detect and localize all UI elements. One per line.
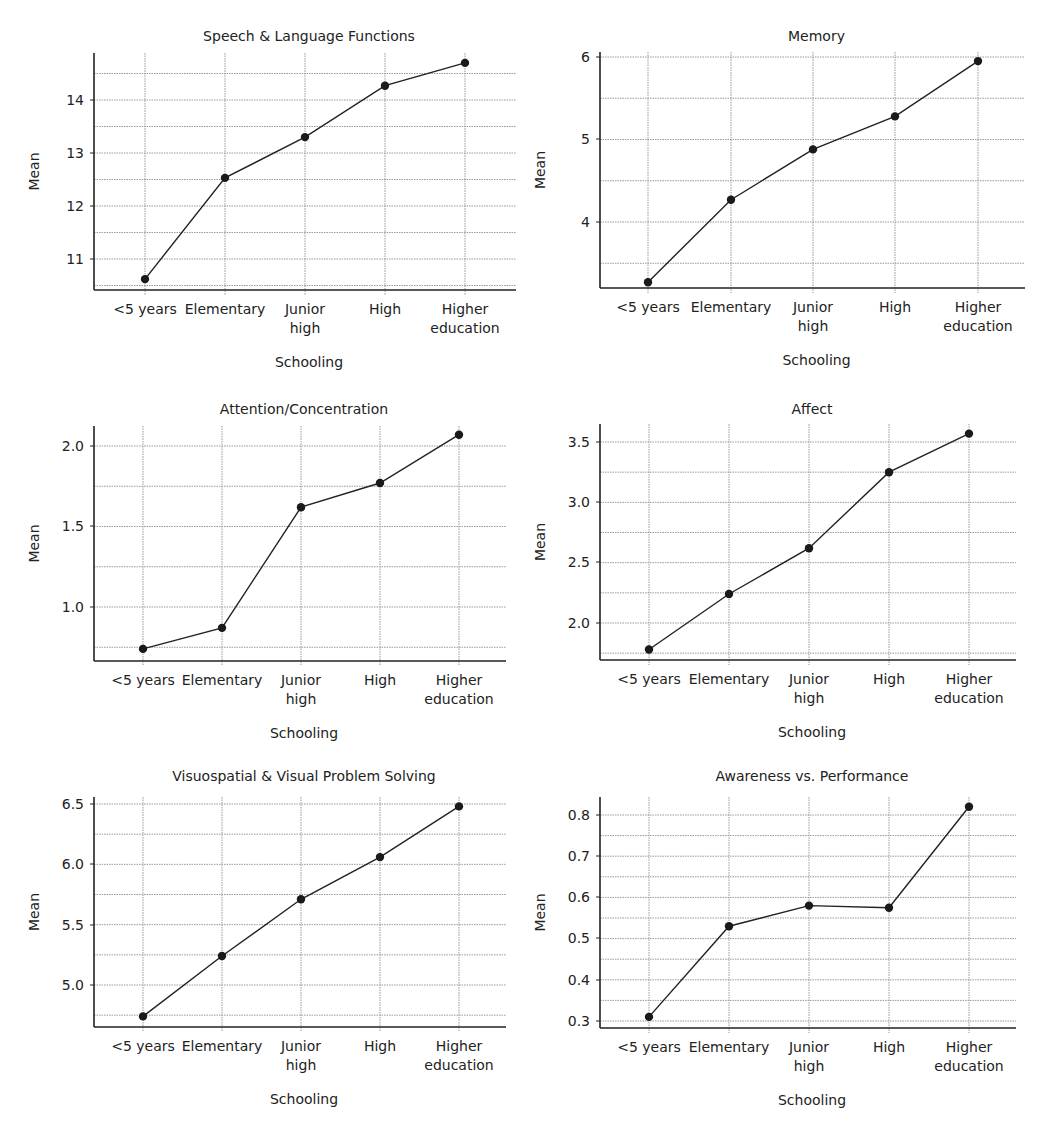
data-point: [885, 468, 893, 476]
chart-panel-1: 11121314Speech & Language Functions<5 ye…: [26, 28, 516, 370]
data-point: [455, 802, 463, 810]
chart-figure: 11121314Speech & Language Functions<5 ye…: [0, 0, 1046, 1139]
x-tick-label: Elementary: [691, 299, 772, 315]
y-axis-label: Mean: [26, 152, 42, 190]
data-point: [805, 901, 813, 909]
y-tick-label: 14: [66, 92, 84, 108]
y-tick-label: 2.0: [568, 615, 590, 631]
x-axis-label: Schooling: [778, 1092, 846, 1108]
x-tick-label: High: [879, 299, 911, 315]
data-point: [974, 57, 982, 65]
data-point: [725, 922, 733, 930]
y-axis-label: Mean: [26, 893, 42, 931]
x-tick-label: High: [873, 1039, 905, 1055]
data-point: [891, 112, 899, 120]
data-point: [644, 278, 652, 286]
y-axis-label: Mean: [532, 893, 548, 931]
chart-title: Speech & Language Functions: [203, 28, 415, 44]
y-tick-label: 5.5: [62, 917, 84, 933]
x-tick-label: Juniorhigh: [788, 671, 829, 706]
x-tick-label: Juniorhigh: [284, 301, 325, 336]
x-tick-label: Highereducation: [934, 1039, 1003, 1074]
chart-panel-4: 2.02.53.03.5Affect<5 yearsElementaryJuni…: [532, 401, 1016, 740]
y-tick-label: 2.5: [568, 554, 590, 570]
x-tick-label: Elementary: [689, 671, 770, 687]
data-point: [376, 853, 384, 861]
y-tick-label: 1.0: [62, 599, 84, 615]
data-point: [455, 431, 463, 439]
y-tick-label: 0.7: [568, 848, 590, 864]
chart-title: Affect: [791, 401, 833, 417]
data-point: [805, 544, 813, 552]
data-point: [885, 904, 893, 912]
data-line: [648, 61, 978, 282]
y-tick-label: 5: [581, 131, 590, 147]
x-axis-label: Schooling: [778, 724, 846, 740]
data-point: [297, 503, 305, 511]
x-tick-label: <5 years: [113, 301, 177, 317]
y-tick-label: 6: [581, 49, 590, 65]
y-tick-label: 11: [66, 251, 84, 267]
x-axis-label: Schooling: [270, 1091, 338, 1107]
data-point: [727, 196, 735, 204]
data-point: [725, 590, 733, 598]
x-tick-label: Juniorhigh: [792, 299, 833, 334]
chart-panel-2: 456Memory<5 yearsElementaryJuniorhighHig…: [532, 28, 1025, 368]
data-point: [139, 1012, 147, 1020]
chart-panel-5: 5.05.56.06.5Visuospatial & Visual Proble…: [26, 768, 506, 1107]
y-tick-label: 6.5: [62, 796, 84, 812]
chart-title: Memory: [788, 28, 845, 44]
data-point: [461, 59, 469, 67]
y-tick-label: 3.5: [568, 434, 590, 450]
chart-panel-3: 1.01.52.0Attention/Concentration<5 years…: [26, 401, 506, 741]
data-point: [301, 133, 309, 141]
y-axis-label: Mean: [532, 151, 548, 189]
data-point: [218, 624, 226, 632]
data-point: [297, 895, 305, 903]
x-tick-label: <5 years: [111, 1038, 175, 1054]
data-point: [965, 429, 973, 437]
chart-title: Attention/Concentration: [220, 401, 388, 417]
y-tick-label: 5.0: [62, 977, 84, 993]
x-tick-label: <5 years: [617, 671, 681, 687]
x-tick-label: Juniorhigh: [280, 672, 321, 707]
data-point: [376, 479, 384, 487]
y-axis-label: Mean: [532, 523, 548, 561]
y-tick-label: 0.8: [568, 807, 590, 823]
x-tick-label: Highereducation: [424, 672, 493, 707]
data-point: [809, 145, 817, 153]
data-point: [139, 645, 147, 653]
data-point: [141, 275, 149, 283]
x-tick-label: Elementary: [185, 301, 266, 317]
x-tick-label: Elementary: [182, 672, 263, 688]
x-tick-label: High: [873, 671, 905, 687]
x-tick-label: <5 years: [616, 299, 680, 315]
x-tick-label: Juniorhigh: [280, 1038, 321, 1073]
x-tick-label: Highereducation: [943, 299, 1012, 334]
chart-title: Visuospatial & Visual Problem Solving: [172, 768, 436, 784]
y-tick-label: 2.0: [62, 438, 84, 454]
x-axis-label: Schooling: [782, 352, 850, 368]
x-tick-label: High: [364, 672, 396, 688]
y-tick-label: 0.6: [568, 889, 590, 905]
x-tick-label: High: [369, 301, 401, 317]
y-axis-label: Mean: [26, 524, 42, 562]
x-tick-label: <5 years: [617, 1039, 681, 1055]
x-tick-label: <5 years: [111, 672, 175, 688]
chart-title: Awareness vs. Performance: [716, 768, 909, 784]
x-tick-label: Highereducation: [424, 1038, 493, 1073]
y-tick-label: 3.0: [568, 494, 590, 510]
data-point: [965, 803, 973, 811]
y-tick-label: 0.4: [568, 972, 590, 988]
data-point: [381, 82, 389, 90]
data-point: [645, 645, 653, 653]
y-tick-label: 13: [66, 145, 84, 161]
x-tick-label: Elementary: [182, 1038, 263, 1054]
data-point: [218, 952, 226, 960]
x-axis-label: Schooling: [270, 725, 338, 741]
y-tick-label: 4: [581, 214, 590, 230]
y-tick-label: 0.5: [568, 930, 590, 946]
y-tick-label: 1.5: [62, 518, 84, 534]
y-tick-label: 12: [66, 198, 84, 214]
y-tick-label: 0.3: [568, 1013, 590, 1029]
